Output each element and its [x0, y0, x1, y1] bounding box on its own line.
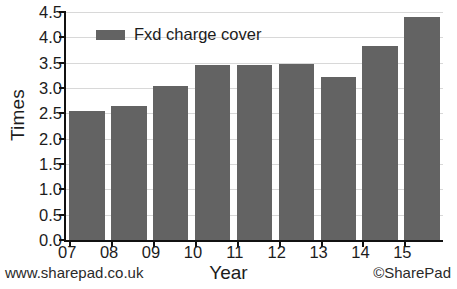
x-axis-tick-label: 11 [215, 243, 255, 262]
bar [237, 65, 272, 240]
x-axis-tick-label: 14 [340, 243, 380, 262]
footer-copyright: ©SharePad [373, 264, 451, 281]
x-axis-tick-label: 10 [173, 243, 213, 262]
bar-chart-figure: Times 0.00.51.01.52.02.53.03.54.04.5 070… [0, 0, 457, 289]
x-axis-tick-label: 07 [47, 243, 87, 262]
y-axis-tick-label: 4.0 [12, 29, 62, 46]
bar [69, 111, 104, 240]
x-axis-tick-label: 13 [299, 243, 339, 262]
x-axis-tick-label: 09 [131, 243, 171, 262]
bars-layer [66, 12, 443, 240]
bar [321, 77, 356, 240]
y-axis-tick-label: 1.0 [12, 181, 62, 198]
y-axis-tick-label: 1.5 [12, 156, 62, 173]
y-axis-tick-label: 2.5 [12, 105, 62, 122]
x-axis-tick-label: 12 [257, 243, 297, 262]
plot-area [64, 12, 443, 242]
bar [111, 106, 146, 240]
y-axis-tick-label: 2.0 [12, 130, 62, 147]
legend-swatch-fxd-charge-cover [96, 30, 125, 40]
y-axis-tick-labels: 0.00.51.01.52.02.53.03.54.04.5 [12, 6, 62, 240]
bar [195, 65, 230, 240]
bar [153, 86, 188, 240]
x-axis-tick-label: 15 [382, 243, 422, 262]
x-axis-tick-label: 08 [89, 243, 129, 262]
bar [362, 46, 397, 240]
y-axis-tick-label: 4.5 [12, 4, 62, 21]
bar [404, 17, 439, 240]
y-axis-tick-label: 3.5 [12, 54, 62, 71]
footer-website: www.sharepad.co.uk [5, 264, 143, 281]
y-axis-tick-label: 0.5 [12, 206, 62, 223]
y-axis-tick-label: 3.0 [12, 80, 62, 97]
chart-legend: Fxd charge cover [96, 25, 261, 44]
bar [279, 64, 314, 240]
legend-label-fxd-charge-cover: Fxd charge cover [134, 25, 261, 44]
